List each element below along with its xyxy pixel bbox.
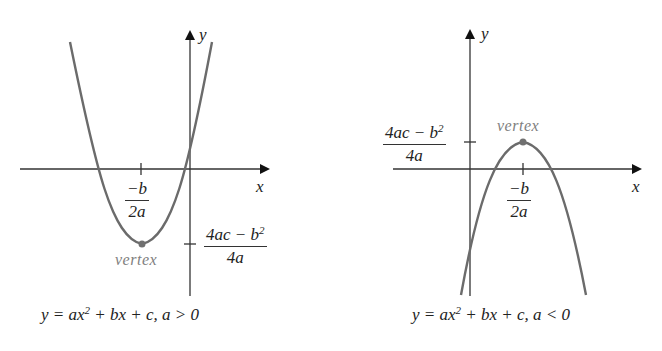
- right-caption: y = ax2 + bx + c, a < 0: [412, 305, 570, 325]
- right-y-tick-denominator: 4a: [406, 145, 423, 165]
- left-x-axis-label: x: [256, 178, 264, 195]
- left-y-axis-label: y: [199, 26, 207, 43]
- left-vertex-dot: [139, 241, 146, 248]
- right-x-tick-denominator: 2a: [510, 201, 527, 221]
- left-vertex-label: vertex: [115, 251, 157, 269]
- right-x-tick-label: −b 2a: [507, 180, 531, 221]
- left-caption: y = ax2 + bx + c, a > 0: [41, 305, 199, 325]
- left-x-tick-numerator: −b: [125, 180, 149, 201]
- right-y-tick-label: 4ac − b2 4a: [383, 124, 446, 165]
- left-x-tick-denominator: 2a: [128, 201, 145, 221]
- right-x-axis-label: x: [632, 178, 640, 195]
- left-x-tick-label: −b 2a: [125, 180, 149, 221]
- left-y-tick-numerator: 4ac − b2: [204, 226, 267, 247]
- right-vertex-dot: [520, 139, 527, 146]
- right-y-tick-numerator: 4ac − b2: [383, 124, 446, 145]
- right-y-axis-label: y: [481, 25, 489, 42]
- right-x-tick-numerator: −b: [507, 180, 531, 201]
- left-y-tick-denominator: 4a: [227, 247, 244, 267]
- left-y-tick-label: 4ac − b2 4a: [204, 226, 267, 267]
- right-vertex-label: vertex: [497, 117, 539, 135]
- parabola-diagrams: [0, 0, 662, 351]
